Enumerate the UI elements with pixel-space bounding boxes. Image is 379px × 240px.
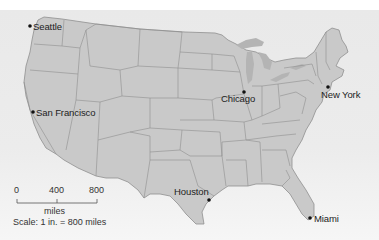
city-label-seattle: Seattle xyxy=(33,21,62,32)
scale-tick-400: 400 xyxy=(49,185,64,195)
city-dot-seattle xyxy=(28,24,32,28)
scale-tick-800: 800 xyxy=(89,185,104,195)
scale-tick-0: 0 xyxy=(14,185,19,195)
city-label-houston: Houston xyxy=(174,186,209,197)
city-dot-miami xyxy=(308,216,312,220)
scale-caption: Scale: 1 in. = 800 miles xyxy=(13,217,106,227)
lake-superior xyxy=(236,38,264,49)
city-label-miami: Miami xyxy=(314,213,339,224)
city-dot-houston xyxy=(207,198,211,202)
scale-unit: miles xyxy=(44,206,65,216)
map-scale: 0 400 800 miles Scale: 1 in. = 800 miles xyxy=(0,185,120,235)
city-dot-san-francisco xyxy=(31,110,35,114)
city-label-san-francisco: San Francisco xyxy=(36,107,95,118)
city-label-new-york: New York xyxy=(321,89,360,100)
city-label-chicago: Chicago xyxy=(221,93,255,104)
